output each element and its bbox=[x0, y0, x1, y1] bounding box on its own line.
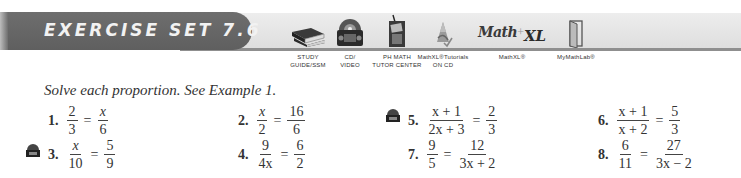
fraction-rhs: 123x + 2 bbox=[457, 138, 497, 171]
resource-study-guide[interactable]: STUDY GUIDE/SSM bbox=[288, 16, 328, 48]
fraction-rhs: x6 bbox=[97, 104, 108, 137]
fraction-lhs: 23 bbox=[67, 104, 78, 137]
exercise-number: 1. bbox=[48, 113, 59, 129]
exercise-7: 7. 95 = 123x + 2 bbox=[408, 138, 497, 171]
exercise-3: 3. x10 = 59 bbox=[48, 138, 115, 171]
fraction-lhs: x + 1x + 2 bbox=[617, 104, 650, 137]
exercise-5: 5. x + 12x + 3 = 23 bbox=[408, 104, 497, 137]
fraction-lhs: x2 bbox=[257, 104, 268, 137]
fraction-lhs: 611 bbox=[617, 138, 634, 171]
exercise-number: 2. bbox=[238, 113, 249, 129]
exercise-6: 6. x + 1x + 2 = 53 bbox=[598, 104, 680, 137]
mathxl-logo-icon: Math+XL bbox=[486, 16, 538, 48]
fraction-rhs: 62 bbox=[294, 138, 305, 171]
resource-label: MyMathLab® bbox=[557, 54, 595, 62]
exercise-4: 4. 94x = 62 bbox=[238, 138, 305, 171]
phone-tutor-icon bbox=[380, 16, 414, 48]
fraction-lhs: x + 12x + 3 bbox=[427, 104, 467, 137]
mathxl-tutorials-cd-icon bbox=[426, 16, 460, 48]
study-guide-book-icon bbox=[288, 16, 328, 48]
exercise-number: 6. bbox=[598, 113, 609, 129]
exercise-number: 5. bbox=[408, 113, 419, 129]
fraction-rhs: 273x − 2 bbox=[654, 138, 694, 171]
resource-label: CD/ VIDEO bbox=[340, 54, 360, 69]
cd-lock-icon bbox=[25, 143, 41, 157]
banner-divider bbox=[180, 48, 741, 51]
resource-mathxl-tutorials-cd[interactable]: MathXL®Tutorials ON CD bbox=[426, 16, 460, 48]
fraction-lhs: 95 bbox=[427, 138, 438, 171]
resource-mymathlab[interactable]: MyMathLab® bbox=[556, 16, 596, 48]
resource-label: MathXL®Tutorials ON CD bbox=[417, 54, 468, 69]
resource-cd-video[interactable]: CD/ VIDEO bbox=[333, 16, 367, 48]
fraction-lhs: x10 bbox=[67, 138, 85, 171]
exercise-8: 8. 611 = 273x − 2 bbox=[598, 138, 694, 171]
cd-lock-icon bbox=[385, 108, 401, 122]
exercise-number: 8. bbox=[598, 147, 609, 163]
exercise-number: 4. bbox=[238, 147, 249, 163]
exercise-2: 2. x2 = 166 bbox=[238, 104, 305, 137]
resource-ph-math-tutor-center[interactable]: PH MATH TUTOR CENTER bbox=[380, 16, 414, 48]
resource-label: STUDY GUIDE/SSM bbox=[290, 54, 325, 69]
exercise-set-title: EXERCISE SET 7.6 bbox=[44, 20, 262, 40]
resource-mathxl[interactable]: Math+XL MathXL® bbox=[486, 16, 538, 48]
exercise-number: 3. bbox=[48, 147, 59, 163]
fraction-rhs: 166 bbox=[287, 104, 305, 137]
fraction-lhs: 94x bbox=[257, 138, 275, 171]
instructions-text: Solve each proportion. See Example 1. bbox=[44, 82, 276, 99]
mymathlab-door-icon bbox=[556, 16, 596, 48]
fraction-rhs: 59 bbox=[104, 138, 115, 171]
exercise-1: 1. 23 = x6 bbox=[48, 104, 108, 137]
resource-label: MathXL® bbox=[499, 54, 526, 62]
fraction-rhs: 53 bbox=[669, 104, 680, 137]
exercise-number: 7. bbox=[408, 147, 419, 163]
cd-video-icon bbox=[333, 16, 367, 48]
resource-label: PH MATH TUTOR CENTER bbox=[372, 54, 421, 69]
fraction-rhs: 23 bbox=[486, 104, 497, 137]
